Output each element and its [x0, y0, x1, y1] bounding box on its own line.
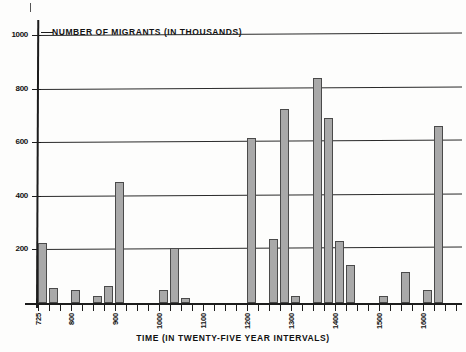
bar-1200 [247, 138, 256, 303]
x-tick-label-1300: 1300 [287, 313, 296, 329]
bar-1025 [170, 248, 179, 303]
y-tick-label-800: 800 [2, 84, 28, 93]
x-tick-1650 [445, 305, 446, 311]
migration-bar-chart: NUMBER OF MIGRANTS (IN THOUSANDS) 200400… [0, 0, 466, 352]
x-tick-750 [49, 305, 50, 311]
bar-1350 [313, 78, 322, 303]
bar-850 [93, 296, 102, 303]
x-tick-1300 [291, 305, 292, 311]
x-tick-1575 [412, 305, 413, 311]
x-tick-1500 [379, 305, 380, 311]
x-tick-1450 [357, 305, 358, 311]
bar-1250 [269, 239, 278, 303]
x-tick-1425 [346, 305, 347, 311]
x-tick-label-1600: 1600 [419, 313, 428, 329]
y-tick-600 [32, 142, 41, 143]
axis-top-tick [30, 3, 31, 12]
y-tick-label-600: 600 [2, 137, 28, 146]
x-tick-900 [115, 305, 116, 311]
x-tick-1525 [390, 305, 391, 311]
x-tick-label-1400: 1400 [331, 313, 340, 329]
x-tick-1050 [181, 305, 182, 311]
bar-1600 [423, 290, 432, 303]
x-tick-1375 [324, 305, 325, 311]
x-axis-title: TIME (IN TWENTY-FIVE YEAR INTERVALS) [0, 333, 466, 343]
y-tick-label-400: 400 [2, 191, 28, 200]
bar-1550 [401, 272, 410, 303]
x-axis-line [25, 303, 462, 305]
bar-725 [38, 243, 47, 303]
y-tick-800 [32, 89, 41, 90]
x-tick-775 [60, 305, 61, 311]
x-tick-1550 [401, 305, 402, 311]
bar-900 [115, 182, 124, 303]
x-tick-1625 [434, 305, 435, 311]
x-tick-925 [126, 305, 127, 311]
x-tick-825 [82, 305, 83, 311]
x-tick-1075 [192, 305, 193, 311]
x-tick-800 [71, 305, 72, 311]
bar-1625 [434, 126, 443, 303]
x-tick-label-1500: 1500 [375, 313, 384, 329]
bar-875 [104, 286, 113, 303]
x-tick-label-900: 900 [111, 313, 120, 325]
x-tick-1325 [302, 305, 303, 311]
x-tick-875 [104, 305, 105, 311]
x-tick-1125 [214, 305, 215, 311]
x-tick-label-1200: 1200 [243, 313, 252, 329]
x-tick-1175 [236, 305, 237, 311]
x-tick-1475 [368, 305, 369, 311]
x-tick-1025 [170, 305, 171, 311]
y-tick-400 [32, 196, 41, 197]
bar-1425 [346, 265, 355, 303]
x-tick-1200 [247, 305, 248, 311]
x-tick-label-1000: 1000 [155, 313, 164, 329]
x-tick-1400 [335, 305, 336, 311]
y-tick-label-200: 200 [2, 244, 28, 253]
y-tick-1000 [32, 35, 41, 36]
x-tick-1250 [269, 305, 270, 311]
bar-1300 [291, 296, 300, 303]
x-tick-850 [93, 305, 94, 311]
bar-1500 [379, 296, 388, 303]
gridline-800 [37, 86, 462, 90]
bar-1275 [280, 109, 289, 303]
x-tick-1275 [280, 305, 281, 311]
x-tick-1600 [423, 305, 424, 311]
x-tick-label-1100: 1100 [199, 313, 208, 328]
x-tick-1100 [203, 305, 204, 311]
bar-1400 [335, 241, 344, 303]
x-tick-label-725: 725 [34, 313, 43, 325]
x-tick-725 [38, 305, 39, 311]
x-tick-950 [137, 305, 138, 311]
x-tick-1000 [159, 305, 160, 311]
x-tick-1675 [456, 305, 457, 311]
x-tick-1150 [225, 305, 226, 311]
bar-750 [49, 288, 58, 303]
bar-800 [71, 290, 80, 303]
x-tick-975 [148, 305, 149, 311]
x-tick-1350 [313, 305, 314, 311]
bar-1050 [181, 298, 190, 303]
x-tick-label-800: 800 [67, 313, 76, 325]
bar-1375 [324, 118, 333, 303]
y-tick-label-1000: 1000 [2, 30, 28, 39]
bar-1000 [159, 290, 168, 303]
x-tick-1225 [258, 305, 259, 311]
